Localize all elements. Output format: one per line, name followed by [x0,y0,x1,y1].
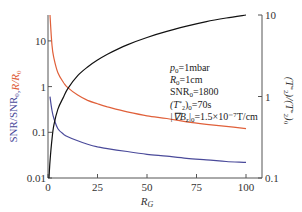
x-axis-title: RG [140,195,154,209]
x-tick-label: 50 [142,181,154,193]
tick-labels: 0.010.11100.11100255075100 [27,9,279,193]
x-tick-label: 0 [45,181,51,193]
left-tick-label: 0.01 [27,172,46,184]
x-tick-label: 75 [191,181,203,193]
x-tick-label: 100 [238,181,255,193]
annotation-line: SNR0=1800 [170,86,219,99]
right-tick-label: 0.1 [265,172,279,184]
x-tick-label: 25 [92,181,104,193]
annotation-line: (T*2)0=70s [170,99,211,112]
left-tick-label: 10 [35,35,47,47]
parameter-annotations: p0=1mbarR0=1cmSNR0=1800(T*2)0=70s|∇Bz|0=… [169,62,258,124]
right-tick-label: 1 [265,91,271,103]
left-y-axis-title: SNR/SNR0,R/R0 [7,70,23,143]
left-tick-label: 0.1 [32,126,46,138]
annotation-line: R0=1cm [169,74,203,87]
left-tick-label: 1 [41,81,47,93]
series-line-snr-snr0 [50,97,246,163]
right-tick-label: 10 [265,9,277,21]
right-y-axis-title: (T*2)/(T*2)0 [282,77,296,125]
chart: 0.010.11100.11100255075100 RGSNR/SNR0,R/… [0,0,302,212]
annotation-line: p0=1mbar [169,62,210,75]
